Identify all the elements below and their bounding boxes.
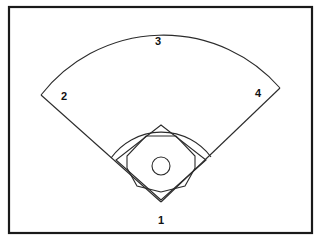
base-label-1: 1 bbox=[158, 214, 164, 226]
base-label-2: 2 bbox=[61, 90, 67, 102]
base-label-3: 3 bbox=[155, 35, 161, 47]
base-label-4: 4 bbox=[255, 87, 262, 99]
baseball-diagram-container: 1234 bbox=[0, 0, 320, 244]
baseball-field-diagram: 1234 bbox=[0, 0, 320, 244]
